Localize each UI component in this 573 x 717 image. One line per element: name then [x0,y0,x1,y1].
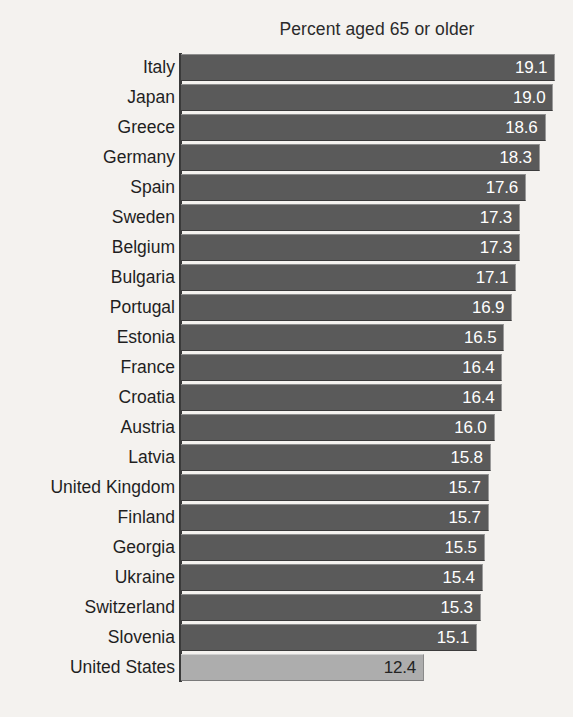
bar-value-label: 17.6 [486,178,518,198]
bar: 15.5 [181,534,485,561]
bar: 15.7 [181,474,489,501]
category-label: United Kingdom [0,476,175,498]
bar: 16.4 [181,354,502,381]
bar-row: France16.4 [0,353,573,383]
category-label: Estonia [0,326,175,348]
bar: 17.3 [181,204,520,231]
bar-row: Japan19.0 [0,83,573,113]
category-label: Greece [0,116,175,138]
bar: 15.3 [181,594,481,621]
bar-row: Portugal16.9 [0,293,573,323]
bar: 19.0 [181,84,553,111]
bar: 17.3 [181,234,520,261]
bar-value-label: 16.0 [454,418,486,438]
category-label: Bulgaria [0,266,175,288]
category-label: Belgium [0,236,175,258]
bar-row: United States12.4 [0,653,573,683]
bar: 15.8 [181,444,491,471]
category-label: Germany [0,146,175,168]
bar-chart: Percent aged 65 or older Italy19.1Japan1… [0,0,573,717]
bar: 19.1 [181,54,555,81]
bar-row: Austria16.0 [0,413,573,443]
category-label: Portugal [0,296,175,318]
bar-value-label: 15.1 [437,628,469,648]
category-label: France [0,356,175,378]
bar-row: Italy19.1 [0,53,573,83]
bar-value-label: 19.1 [515,58,547,78]
category-label: United States [0,656,175,678]
category-label: Georgia [0,536,175,558]
bar-value-label: 15.5 [445,538,477,558]
bar-row: Estonia16.5 [0,323,573,353]
bar: 17.6 [181,174,526,201]
bar-value-label: 17.3 [480,208,512,228]
bar-row: Greece18.6 [0,113,573,143]
category-label: Italy [0,56,175,78]
bar-value-label: 15.7 [448,478,480,498]
bar: 15.4 [181,564,483,591]
bar-row: Spain17.6 [0,173,573,203]
category-label: Sweden [0,206,175,228]
bar: 18.3 [181,144,540,171]
category-label: Austria [0,416,175,438]
bar-value-label: 15.7 [448,508,480,528]
category-label: Slovenia [0,626,175,648]
bar-value-label: 15.8 [450,448,482,468]
bar: 16.4 [181,384,502,411]
bar: 15.7 [181,504,489,531]
bar-row: Latvia15.8 [0,443,573,473]
bar-value-label: 16.4 [462,358,494,378]
bar-row: Slovenia15.1 [0,623,573,653]
chart-title: Percent aged 65 or older [181,19,573,40]
bar-row: Georgia15.5 [0,533,573,563]
bar-highlighted: 12.4 [181,654,424,681]
bar-row: Croatia16.4 [0,383,573,413]
bar: 15.1 [181,624,477,651]
bar: 17.1 [181,264,516,291]
bar: 16.0 [181,414,495,441]
bar-value-label: 15.3 [441,598,473,618]
bar-value-label: 17.3 [480,238,512,258]
category-label: Switzerland [0,596,175,618]
category-label: Japan [0,86,175,108]
bar: 18.6 [181,114,546,141]
category-label: Croatia [0,386,175,408]
bar-value-label: 18.3 [499,148,531,168]
bar: 16.5 [181,324,504,351]
category-label: Ukraine [0,566,175,588]
bar-row: Finland15.7 [0,503,573,533]
bar-value-label: 16.9 [472,298,504,318]
bar-value-label: 16.5 [464,328,496,348]
bar-value-label: 19.0 [513,88,545,108]
bar-row: Belgium17.3 [0,233,573,263]
category-label: Spain [0,176,175,198]
bar-value-label: 15.4 [443,568,475,588]
bar-row: Switzerland15.3 [0,593,573,623]
category-label: Finland [0,506,175,528]
bar-value-label: 16.4 [462,388,494,408]
bar-row: Germany18.3 [0,143,573,173]
bar-row: Ukraine15.4 [0,563,573,593]
bar: 16.9 [181,294,512,321]
bar-value-label: 12.4 [384,658,416,678]
bar-row: Sweden17.3 [0,203,573,233]
bar-row: United Kingdom15.7 [0,473,573,503]
category-label: Latvia [0,446,175,468]
bar-value-label: 18.6 [505,118,537,138]
bar-value-label: 17.1 [476,268,508,288]
bar-row: Bulgaria17.1 [0,263,573,293]
